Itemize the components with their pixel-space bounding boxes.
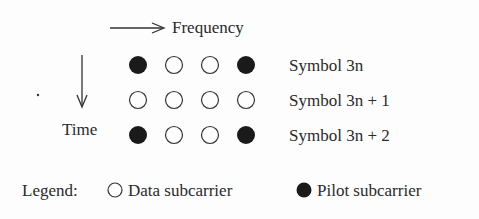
data-subcarrier-icon xyxy=(166,127,183,144)
data-subcarrier-icon xyxy=(130,92,147,109)
legend-data-icon xyxy=(108,183,122,197)
row-label-1: Symbol 3n + 1 xyxy=(289,92,390,109)
legend-data-label: Data subcarrier xyxy=(128,182,232,199)
row-label-2: Symbol 3n + 2 xyxy=(289,127,390,144)
data-subcarrier-icon xyxy=(166,92,183,109)
legend-title: Legend: xyxy=(22,182,78,199)
legend-pilot-label: Pilot subcarrier xyxy=(317,182,421,199)
time-arrow-icon xyxy=(77,55,87,107)
time-label: Time xyxy=(62,121,97,138)
pilot-subcarrier-icon xyxy=(237,56,255,74)
pilot-subcarrier-icon xyxy=(237,126,255,144)
stray-dot xyxy=(37,94,39,96)
pilot-subcarrier-icon xyxy=(129,126,147,144)
data-subcarrier-icon xyxy=(202,127,219,144)
frequency-label: Frequency xyxy=(172,19,244,36)
data-subcarrier-icon xyxy=(238,92,255,109)
data-subcarrier-icon xyxy=(202,92,219,109)
legend-pilot-icon xyxy=(297,183,312,198)
data-subcarrier-icon xyxy=(166,57,183,74)
row-label-0: Symbol 3n xyxy=(289,57,363,74)
subcarrier-grid xyxy=(129,56,255,144)
frequency-arrow-icon xyxy=(110,23,164,33)
data-subcarrier-icon xyxy=(202,57,219,74)
pilot-subcarrier-icon xyxy=(129,56,147,74)
